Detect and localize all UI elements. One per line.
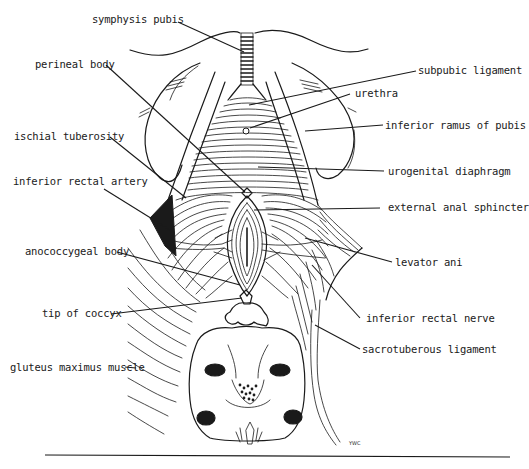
label-levator-ani: levator ani [395, 256, 462, 268]
label-tip-of-coccyx: tip of coccyx [42, 307, 122, 319]
artist-signature: YWC [349, 440, 361, 446]
coccyx-sacrum [189, 290, 305, 444]
label-ischial-tuberosity: ischial tuberosity [14, 130, 124, 142]
label-perineal-body: perineal body [35, 58, 115, 70]
label-subpubic-ligament: subpubic ligament [418, 64, 522, 76]
label-urogenital-diaphragm: urogenital diaphragm [388, 165, 510, 177]
label-sacrotuberous-ligament: sacrotuberous ligament [362, 343, 497, 355]
symphysis-pubis [241, 33, 253, 85]
label-symphysis-pubis: symphysis pubis [92, 13, 184, 25]
label-inferior-rectal-nerve: inferior rectal nerve [366, 312, 495, 324]
external-anal-sphincter [227, 196, 266, 296]
label-gluteus-maximus-muscle: gluteus maximus muscle [10, 361, 145, 373]
label-inferior-rectal-artery: inferior rectal artery [13, 175, 148, 187]
label-external-anal-sphincter: external anal sphincter [388, 201, 529, 213]
label-inferior-ramus-of-pubis: inferior ramus of pubis [385, 119, 526, 131]
label-anococcygeal-body: anococcygeal body [25, 245, 129, 257]
gluteus-maximus-muscle [128, 225, 205, 434]
urethra-opening [243, 128, 249, 134]
label-urethra: urethra [355, 87, 398, 99]
pubic-bones [130, 30, 368, 205]
bottom-rule [45, 455, 510, 457]
